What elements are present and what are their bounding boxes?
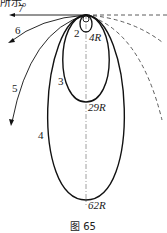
label-62R: 62R xyxy=(88,199,106,211)
label-4R: 4R xyxy=(89,31,102,43)
label-29R: 29R xyxy=(88,101,106,113)
arrow-5-icon xyxy=(9,119,14,126)
arrow-7-icon xyxy=(9,13,15,17)
label-6: 6 xyxy=(15,24,21,36)
top-text-fragment: 所示。 xyxy=(0,0,33,8)
label-5: 5 xyxy=(12,82,18,94)
label-2: 2 xyxy=(74,27,80,39)
label-3: 3 xyxy=(58,75,64,87)
trajectory-diagram: 所示。 7 6 5 4 62R 3 29R 2 4R 图 65 xyxy=(0,0,167,233)
label-7: 7 xyxy=(18,2,24,14)
figure-caption: 图 65 xyxy=(70,221,96,232)
label-4: 4 xyxy=(38,129,44,141)
